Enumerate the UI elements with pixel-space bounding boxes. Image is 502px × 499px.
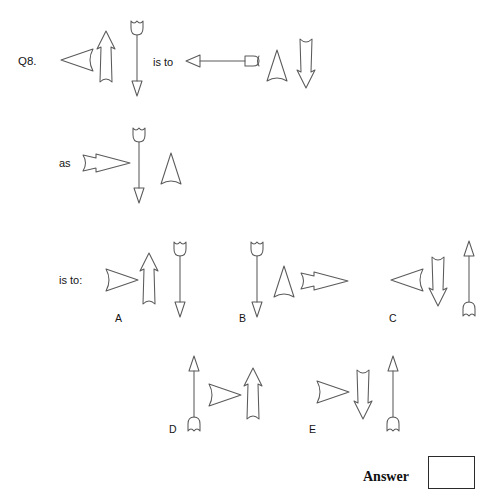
left-arrowhead-short-icon [60,46,96,74]
option-letter-c: C [389,313,397,324]
full-arrow-up-long-icon [457,240,481,318]
connector-is-to-colon: is to: [59,275,82,286]
option-letter-d: D [169,424,177,435]
up-arrowhead-short-icon [265,49,289,83]
full-arrow-up-long-icon [381,355,405,433]
right-arrowhead-short-icon [314,378,350,406]
right-arrowhead-long-icon [300,268,350,294]
right-arrowhead-long-icon [82,150,132,176]
right-arrowhead-short-icon [206,381,242,409]
full-arrow-down-long-icon [245,240,269,318]
full-arrow-up-long-icon [182,355,206,433]
connector-is-to: is to [153,57,173,68]
answer-box[interactable] [428,456,475,489]
up-arrowhead-tall-icon [240,367,266,421]
up-arrowhead-tall-icon [93,30,119,84]
question-label: Q8. [18,56,37,68]
option-letter-a: A [115,313,122,324]
down-arrowhead-tall-icon [425,255,451,307]
left-arrow-horizontal-nocked-icon [185,50,263,72]
option-letter-e: E [309,424,316,435]
down-arrowhead-tall-icon [293,37,319,89]
full-arrow-down-long-icon [168,240,192,318]
right-arrowhead-short-icon [103,266,139,294]
answer-label: Answer [363,470,409,484]
up-arrowhead-tall-icon [136,252,162,306]
full-arrow-down-long-icon [127,126,151,204]
puzzle-page: Q8. is to [0,0,502,499]
left-arrowhead-short-icon [390,266,426,294]
up-arrowhead-short-icon [159,152,183,186]
down-arrowhead-tall-icon [350,368,376,420]
up-arrowhead-short-icon [272,265,296,299]
connector-as: as [59,158,71,169]
option-letter-b: B [239,313,246,324]
full-arrow-down-long-icon [125,19,149,97]
